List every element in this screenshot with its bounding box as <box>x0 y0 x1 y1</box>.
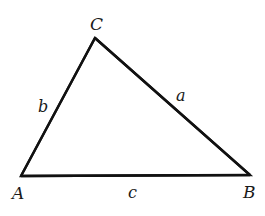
side-label-a: a <box>176 86 186 105</box>
side-a <box>95 38 250 175</box>
triangle-diagram: C A B b a c <box>0 0 265 216</box>
triangle-abc <box>21 38 250 176</box>
vertex-label-b: B <box>242 182 256 202</box>
side-c <box>21 175 250 176</box>
side-label-b: b <box>38 97 48 116</box>
vertex-label-a: A <box>10 183 24 203</box>
side-label-c: c <box>128 183 137 202</box>
side-b <box>21 38 95 176</box>
vertex-label-c: C <box>90 14 103 34</box>
